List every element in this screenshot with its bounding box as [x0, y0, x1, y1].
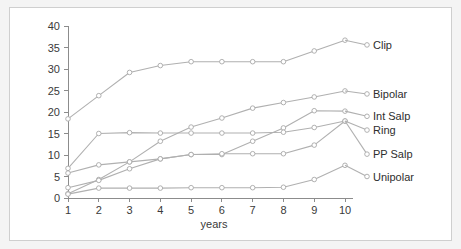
series-marker — [158, 139, 163, 144]
series-marker — [250, 139, 255, 144]
series-marker — [312, 177, 317, 182]
series-marker — [96, 178, 101, 183]
series-marker — [96, 93, 101, 98]
series-marker — [312, 49, 317, 54]
series-label-marker — [365, 128, 370, 133]
series-marker — [66, 166, 71, 171]
y-axis: 0510152025303540 — [48, 20, 68, 204]
series-marker — [250, 185, 255, 190]
series-marker — [66, 185, 71, 190]
series-label-pp-salp: PP Salp — [373, 148, 413, 160]
x-tick-label: 4 — [157, 204, 163, 216]
series-marker — [158, 157, 163, 162]
series-label-marker — [365, 152, 370, 157]
series-marker — [220, 151, 225, 156]
x-tick-label: 5 — [188, 204, 194, 216]
series-marker — [96, 163, 101, 168]
series-label-marker — [365, 174, 370, 179]
series-marker — [189, 131, 194, 136]
series-label-ring: Ring — [373, 124, 396, 136]
y-tick-label: 20 — [48, 106, 60, 118]
series-marker — [312, 143, 317, 148]
series-marker — [127, 166, 132, 171]
y-tick-label: 0 — [54, 192, 60, 204]
y-tick-label: 10 — [48, 149, 60, 161]
x-tick-label: 8 — [280, 204, 286, 216]
series-marker — [158, 63, 163, 68]
chart-figure: 0510152025303540 12345678910 ClipBipolar… — [0, 0, 461, 249]
series-marker — [127, 130, 132, 135]
series-marker — [250, 151, 255, 156]
series-marker — [96, 131, 101, 136]
y-tick-label: 35 — [48, 42, 60, 54]
y-tick-label: 25 — [48, 85, 60, 97]
series-marker — [189, 125, 194, 130]
line-chart: 0510152025303540 12345678910 ClipBipolar… — [0, 0, 461, 249]
series-marker — [312, 125, 317, 130]
series-marker — [66, 171, 71, 176]
series-marker — [250, 59, 255, 64]
series-marker — [96, 186, 101, 191]
series-marker — [66, 192, 71, 197]
series-marker — [127, 160, 132, 165]
series-marker — [250, 131, 255, 136]
series-label-marker — [365, 114, 370, 119]
series-label-int-salp: Int Salp — [373, 110, 410, 122]
y-tick-label: 30 — [48, 63, 60, 75]
x-tick-label: 3 — [126, 204, 132, 216]
series-marker — [312, 108, 317, 113]
series-marker — [312, 95, 317, 100]
series-marker — [281, 151, 286, 156]
series-marker — [220, 131, 225, 136]
series-layer — [66, 38, 348, 197]
series-marker — [66, 117, 71, 122]
series-labels: ClipBipolarInt SalpRingPP SalpUnipolar — [345, 39, 414, 183]
series-marker — [189, 185, 194, 190]
series-label-bipolar: Bipolar — [373, 88, 408, 100]
series-marker — [281, 185, 286, 190]
series-marker — [189, 59, 194, 64]
x-axis: 12345678910 — [65, 198, 353, 216]
series-line-bipolar — [68, 91, 345, 194]
series-label-clip: Clip — [373, 39, 392, 51]
series-marker — [281, 59, 286, 64]
x-tick-label: 10 — [339, 204, 351, 216]
series-marker — [189, 152, 194, 157]
series-marker — [158, 131, 163, 136]
series-marker — [127, 186, 132, 191]
series-label-unipolar: Unipolar — [373, 171, 414, 183]
series-marker — [220, 185, 225, 190]
x-tick-label: 7 — [250, 204, 256, 216]
x-tick-label: 2 — [96, 204, 102, 216]
x-axis-title: years — [201, 218, 228, 230]
series-marker — [127, 70, 132, 75]
x-tick-label: 1 — [65, 204, 71, 216]
series-line-clip — [68, 40, 345, 119]
series-marker — [220, 59, 225, 64]
series-label-marker — [365, 43, 370, 48]
series-marker — [281, 130, 286, 135]
series-marker — [158, 186, 163, 191]
series-line-ring — [68, 121, 345, 168]
series-leader-line — [345, 40, 367, 45]
series-leader-line — [345, 165, 367, 176]
y-tick-label: 40 — [48, 20, 60, 32]
series-marker — [220, 116, 225, 121]
x-tick-label: 9 — [311, 204, 317, 216]
y-tick-label: 5 — [54, 171, 60, 183]
series-marker — [281, 100, 286, 105]
series-leader-line — [345, 111, 367, 116]
x-tick-label: 6 — [219, 204, 225, 216]
series-line-unipolar — [68, 165, 345, 194]
series-leader-line — [345, 91, 367, 94]
series-marker — [250, 106, 255, 111]
y-tick-label: 15 — [48, 128, 60, 140]
series-label-marker — [365, 92, 370, 97]
